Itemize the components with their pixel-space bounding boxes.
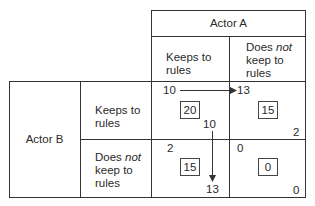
arrow-right-icon [0,0,315,206]
